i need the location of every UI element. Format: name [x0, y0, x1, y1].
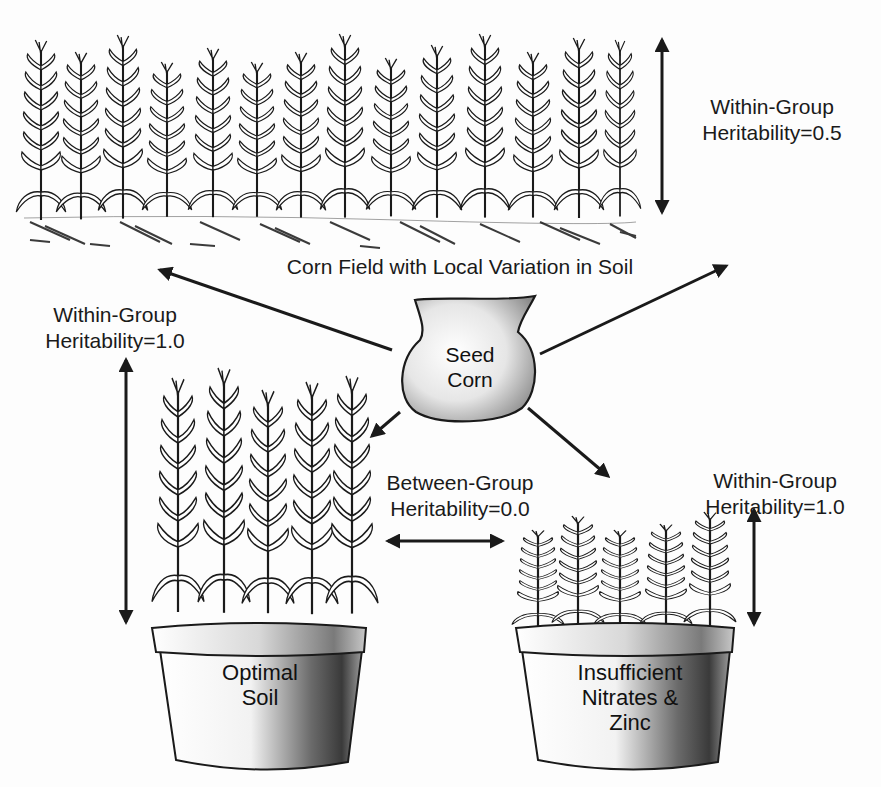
optimal-pot-label: Optimal Soil — [200, 660, 320, 710]
corn-field-illustration — [16, 34, 641, 248]
deficient-pot-label: Insufficient Nitrates & Zinc — [560, 660, 700, 735]
seed-bag-label: Seed Corn — [420, 342, 520, 392]
field-heritability-label: Within-Group Heritability=0.5 — [682, 94, 862, 146]
optimal-pot-plants — [152, 368, 378, 614]
heritability-diagram: Within-Group Heritability=0.5 Corn Field… — [0, 0, 881, 787]
arrow-to-optimal-pot — [372, 412, 400, 436]
arrow-to-deficient-pot — [528, 408, 608, 476]
field-caption: Corn Field with Local Variation in Soil — [200, 254, 720, 280]
optimal-heritability-label: Within-Group Heritability=1.0 — [20, 302, 210, 354]
deficient-pot-plants — [512, 512, 736, 629]
deficient-heritability-label: Within-Group Heritability=1.0 — [680, 468, 870, 520]
between-group-label: Between-Group Heritability=0.0 — [370, 470, 550, 522]
